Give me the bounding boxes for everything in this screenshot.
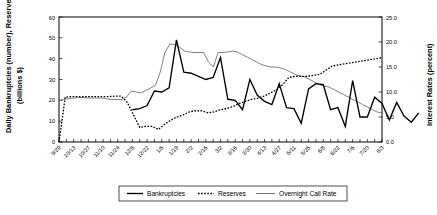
- y-axis-title: Daily Bankruptcies (number), Reserves (b…: [4, 0, 24, 133]
- x-tick-label: 11/24: [107, 144, 121, 158]
- y-tick-50: 50: [49, 35, 55, 41]
- y2-tick-20: 20.0: [386, 39, 397, 45]
- legend-label-overnight-call-rate: Overnight Call Rate: [279, 190, 337, 198]
- legend-label-bankruptcies: Bankruptcies: [147, 190, 186, 198]
- x-axis-labels: 9/2910/1310/2711/1011/2412/812/221/51/19…: [50, 144, 385, 158]
- x-tick-label: 6/22: [329, 144, 341, 156]
- plot-frame: [59, 17, 382, 142]
- x-tick-label: 7/6: [346, 144, 356, 154]
- x-tick-label: 10/13: [62, 144, 76, 158]
- y2-axis-ticks: 0.0 5.0 10.0 15.0 20.0 25.0: [379, 15, 397, 146]
- y-axis-title-line1: Daily Bankruptcies (number), Reserves: [4, 0, 13, 133]
- x-tick-label: 8/3: [375, 144, 385, 154]
- legend-label-reserves: Reserves: [218, 190, 247, 197]
- y-tick-60: 60: [49, 15, 55, 21]
- x-tick-label: 7/20: [358, 144, 370, 156]
- x-tick-label: 11/10: [92, 144, 106, 158]
- x-tick-label: 1/5: [155, 144, 165, 154]
- y-axis-title-line2: (billions $): [15, 67, 24, 104]
- x-tick-label: 4/13: [256, 144, 268, 156]
- y-tick-40: 40: [49, 56, 55, 62]
- y-tick-10: 10: [49, 118, 55, 124]
- y2-axis-title: Interest Rates (percent): [425, 43, 434, 126]
- series-line-bankruptcies: [132, 40, 418, 126]
- x-tick-label: 9/29: [50, 144, 62, 156]
- x-tick-label: 12/8: [123, 144, 135, 156]
- x-tick-label: 3/16: [226, 144, 238, 156]
- x-tick-label: 1/19: [167, 144, 179, 156]
- x-tick-label: 6/8: [316, 144, 326, 154]
- chart-figure: Daily Bankruptcies (number), Reserves (b…: [0, 0, 437, 215]
- series-line-overnight-call-rate: [59, 44, 382, 113]
- y2-tick-0: 0.0: [386, 139, 394, 145]
- x-tick-label: 3/30: [241, 144, 253, 156]
- y2-tick-15: 15.0: [386, 64, 397, 70]
- x-tick-label: 12/22: [136, 144, 150, 158]
- y-tick-0: 0: [52, 139, 55, 145]
- x-tick-label: 2/2: [184, 144, 194, 154]
- x-tick-label: 3/2: [214, 144, 224, 154]
- chart-canvas: Daily Bankruptcies (number), Reserves (b…: [0, 0, 437, 215]
- x-tick-label: 5/11: [285, 144, 297, 156]
- x-tick-label: 4/27: [270, 144, 282, 156]
- chart-legend: Bankruptcies Reserves Overnight Call Rat…: [119, 186, 347, 201]
- x-tick-label: 2/16: [197, 144, 209, 156]
- y2-tick-10: 10.0: [386, 89, 397, 95]
- y2-tick-25: 25.0: [386, 15, 397, 21]
- y-tick-30: 30: [49, 77, 55, 83]
- x-tick-label: 5/25: [300, 144, 312, 156]
- y-tick-20: 20: [49, 97, 55, 103]
- y-axis-ticks: 0 10 20 30 40 50 60: [49, 15, 63, 146]
- series-line-reserves: [59, 58, 382, 142]
- x-tick-label: 10/27: [77, 144, 91, 158]
